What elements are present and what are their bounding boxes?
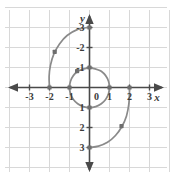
x-tick-label: -1 (65, 91, 73, 102)
x-tick-label: 1 (107, 91, 112, 102)
x-tick-label: 0 (94, 91, 99, 102)
y-tick-label: -2 (76, 42, 84, 53)
coordinate-plane: -3-2-10123 -3-2-1123 x y (0, 0, 171, 179)
y-tick-label: 1 (80, 102, 85, 113)
point-marker (87, 145, 91, 149)
x-tick-label: 2 (127, 91, 132, 102)
y-tick-label: -1 (76, 62, 84, 73)
point-marker (47, 85, 51, 89)
point-marker (127, 85, 131, 89)
chart-background (0, 0, 171, 179)
point-marker (87, 105, 91, 109)
y-tick-label: 3 (80, 142, 85, 153)
point-marker (87, 25, 91, 29)
point-marker (53, 50, 57, 54)
point-marker (67, 85, 71, 89)
y-axis-label: y (78, 12, 85, 24)
point-marker (107, 85, 111, 89)
point-marker (119, 124, 123, 128)
y-tick-label: 2 (80, 122, 85, 133)
x-tick-label: -2 (45, 91, 53, 102)
x-axis-label: x (153, 91, 160, 103)
polar-spiral-graph: -3-2-10123 -3-2-1123 x y (0, 0, 171, 179)
x-tick-label: -3 (25, 91, 33, 102)
x-tick-label: 3 (147, 91, 152, 102)
point-marker (87, 65, 91, 69)
